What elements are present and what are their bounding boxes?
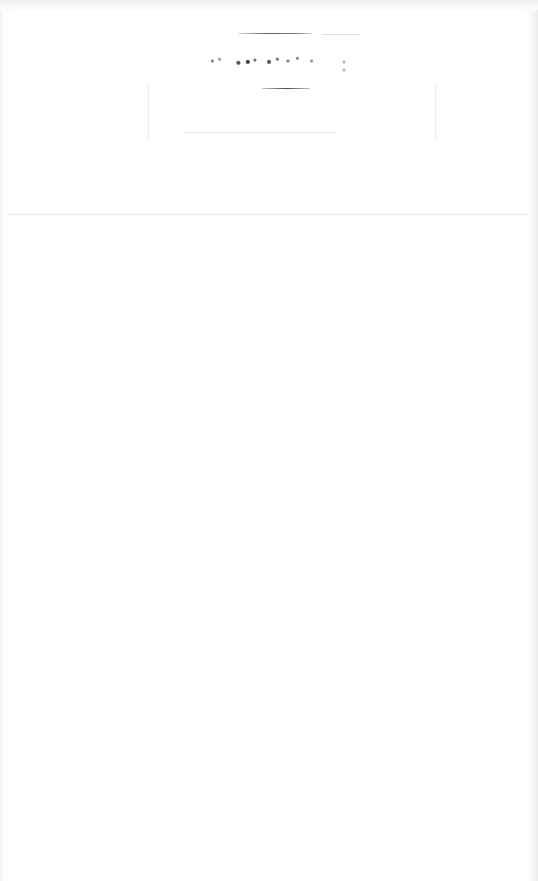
- scan-top-edge: [0, 0, 538, 10]
- faint-text-line: [185, 132, 335, 133]
- header-rule-tail: [322, 34, 360, 35]
- faint-section-divider: [8, 214, 528, 215]
- illegible-mark: [342, 56, 346, 76]
- header-rule: [238, 33, 313, 34]
- illegible-heading-text: [203, 52, 321, 70]
- document-page: [0, 0, 538, 881]
